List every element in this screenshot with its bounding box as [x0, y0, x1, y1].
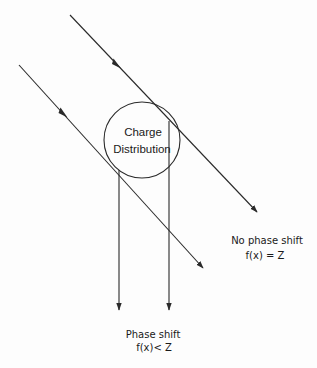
phase-shift-equation: f(x)< Z	[124, 342, 184, 353]
lower-incident-ray	[19, 65, 203, 268]
circle-label-charge: Charge	[105, 126, 181, 138]
circle-label-distribution: Distribution	[104, 143, 180, 155]
phase-shift-label: Phase shift	[122, 329, 184, 340]
figure-page: Charge Distribution No phase shift f(x) …	[0, 0, 317, 368]
lower-ray-mid-arrow-icon	[59, 108, 68, 118]
upper-ray-mid-arrow-icon	[112, 59, 121, 69]
no-phase-shift-equation: f(x) = Z	[231, 250, 299, 261]
phase-shift-diagram	[0, 0, 317, 368]
no-phase-shift-label: No phase shift	[231, 235, 303, 246]
upper-incident-ray	[70, 15, 257, 212]
